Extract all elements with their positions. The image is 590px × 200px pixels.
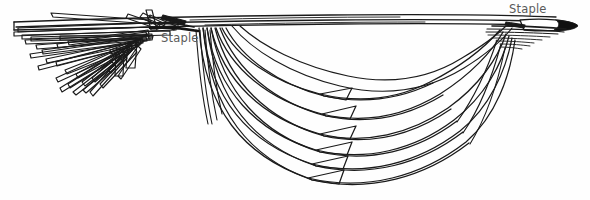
screenshot-root: Staple Staple xyxy=(0,0,590,200)
staple-label-left: Staple xyxy=(161,31,199,45)
staple-label-right: Staple xyxy=(509,2,547,16)
staple-bundle-diagram xyxy=(0,0,590,200)
